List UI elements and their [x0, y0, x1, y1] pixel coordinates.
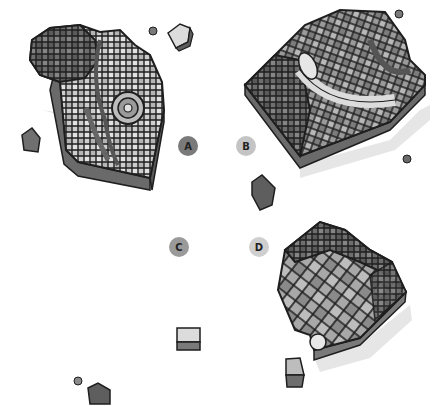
panel-label-d-text: D	[255, 242, 263, 253]
panel-label-a: A	[178, 136, 198, 156]
panel-label-a-text: A	[184, 141, 192, 152]
fragment-d	[278, 222, 412, 387]
fragment-a	[22, 24, 193, 190]
fragment-b	[245, 10, 430, 210]
panel-label-b: B	[236, 136, 256, 156]
panel-label-c-text: C	[175, 242, 182, 253]
panel-label-b-text: B	[242, 141, 250, 152]
mosaic-illustration	[0, 0, 436, 406]
panel-label-d: D	[249, 237, 269, 257]
panel-label-c: C	[169, 237, 189, 257]
